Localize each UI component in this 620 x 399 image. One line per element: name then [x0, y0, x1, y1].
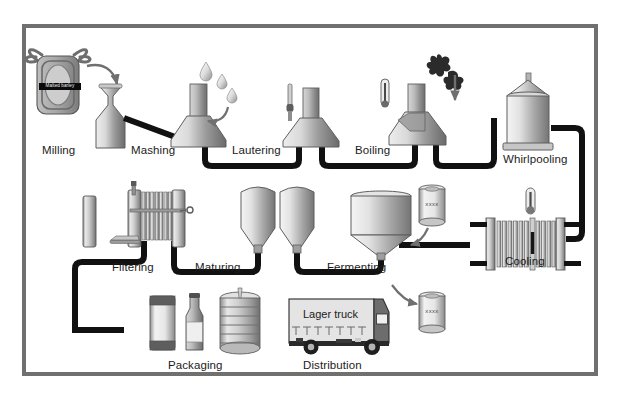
arrow-fermenting-to-yeast-lower: [392, 285, 417, 304]
milling-barley-bag: [26, 50, 90, 114]
malted-barley-label: Malted barley: [39, 83, 81, 90]
maturing-tank-right: [280, 187, 314, 253]
mashing-vessel: [96, 84, 125, 148]
beer-keg-icon: [220, 288, 260, 354]
pipe-network-middle: [75, 241, 470, 330]
beer-can-icon: [150, 296, 175, 350]
boiling-kettle: [389, 84, 446, 145]
step-label-boiling: Boiling: [355, 145, 390, 157]
step-label-milling: Milling: [42, 145, 75, 157]
step-label-whirlpooling: Whirlpooling: [503, 154, 567, 166]
filtering-plate-filter: [83, 181, 193, 247]
thermometer-boiling-icon: [381, 79, 389, 108]
whirlpool-tank: [503, 73, 553, 150]
lautering-vessel: [171, 84, 226, 147]
hops-icon: [427, 54, 464, 90]
lauter-rake-vessel: [283, 84, 339, 147]
step-label-maturing: Maturing: [195, 262, 241, 274]
yeast-upper-label: XXXX: [423, 203, 441, 207]
step-label-packaging: Packaging: [168, 360, 223, 372]
beer-bottle-icon: [186, 293, 203, 350]
step-label-cooling: Cooling: [505, 256, 545, 268]
diagram-stage: Milling Mashing Lautering Boiling Whirlp…: [0, 0, 620, 399]
maturing-tank-left: [241, 187, 275, 253]
truck-side-label: Lager truck: [303, 309, 358, 320]
thermometer-cooling-icon: [526, 188, 535, 214]
yeast-lower-label: XXXX: [423, 310, 441, 314]
step-label-distribution: Distribution: [303, 360, 362, 372]
process-flow-illustration: [0, 0, 620, 399]
arrow-barley-to-mashing: [87, 65, 117, 84]
step-label-lautering: Lautering: [232, 145, 281, 157]
step-label-filtering: Filtering: [112, 262, 154, 274]
step-label-mashing: Mashing: [131, 145, 175, 157]
step-label-fermenting: Fermenting: [327, 262, 386, 274]
fermenting-tank: [351, 191, 411, 260]
